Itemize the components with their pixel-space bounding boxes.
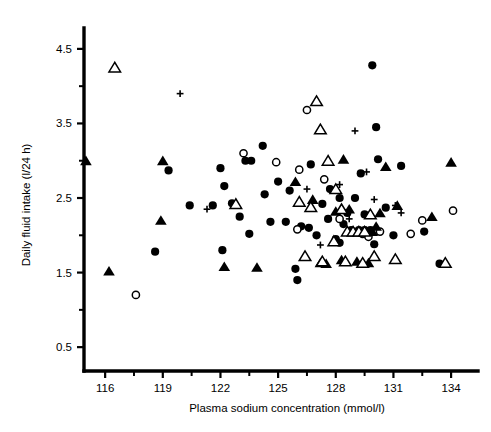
point-filled-circle [259, 142, 267, 150]
point-open-circle [273, 159, 280, 166]
x-tick-label: 122 [211, 382, 230, 394]
point-filled-circle [274, 178, 282, 186]
point-filled-circle [374, 155, 382, 163]
point-open-triangle [336, 204, 348, 214]
y-tick-label: 3.5 [56, 117, 72, 129]
point-plus [398, 210, 405, 217]
point-filled-circle [151, 248, 159, 256]
point-open-circle [449, 207, 456, 214]
point-filled-triangle [445, 157, 457, 167]
tick-labels-group: 0.51.52.53.54.5116119122125128131134 [56, 43, 461, 394]
y-tick-label: 1.5 [56, 267, 72, 279]
point-filled-circle [291, 265, 299, 273]
point-plus [371, 196, 378, 203]
point-open-circle [296, 166, 303, 173]
point-filled-triangle [307, 194, 319, 204]
point-filled-circle [216, 164, 224, 172]
plot-canvas: 0.51.52.53.54.5116119122125128131134 Pla… [0, 0, 491, 432]
point-filled-circle [336, 194, 344, 202]
point-filled-circle [245, 230, 253, 238]
point-plus [317, 242, 324, 249]
point-filled-circle [261, 190, 269, 198]
point-open-circle [294, 226, 301, 233]
x-tick-label: 116 [96, 382, 114, 394]
point-filled-circle [324, 215, 332, 223]
point-filled-circle [370, 240, 378, 248]
point-plus [304, 186, 311, 193]
x-tick-label: 125 [269, 382, 288, 394]
point-filled-triangle [370, 221, 382, 231]
x-tick-label: 128 [326, 382, 345, 394]
y-tick-label: 0.5 [56, 341, 72, 353]
point-filled-triangle [251, 262, 263, 272]
point-open-triangle [315, 124, 327, 134]
point-open-triangle [368, 251, 380, 261]
x-axis-title: Plasma sodium concentration (mmol/l) [189, 402, 385, 414]
point-filled-triangle [426, 211, 438, 221]
point-filled-circle [305, 224, 313, 232]
point-filled-circle [368, 61, 376, 69]
point-filled-circle [247, 157, 255, 165]
point-open-triangle [390, 254, 402, 264]
point-filled-circle [372, 123, 380, 131]
point-filled-circle [209, 201, 217, 209]
point-open-circle [407, 230, 414, 237]
point-filled-circle [389, 231, 397, 239]
point-filled-circle [318, 200, 326, 208]
point-open-circle [303, 106, 310, 113]
point-plus [352, 128, 359, 135]
point-filled-circle [293, 276, 301, 284]
point-filled-circle [307, 160, 315, 168]
point-filled-circle [164, 166, 172, 174]
point-filled-circle [236, 213, 244, 221]
y-tick-label: 4.5 [56, 43, 72, 55]
point-open-circle [321, 176, 328, 183]
data-points-group [80, 61, 457, 298]
point-open-circle [336, 215, 343, 222]
point-filled-circle [286, 186, 294, 194]
point-filled-circle [351, 194, 359, 202]
point-filled-circle [218, 246, 226, 254]
point-filled-triangle [380, 161, 392, 171]
point-open-triangle [311, 96, 323, 106]
point-open-triangle [109, 62, 121, 72]
point-open-triangle [322, 156, 334, 166]
point-filled-circle [282, 218, 290, 226]
tick-marks-group [77, 49, 451, 378]
point-filled-triangle [103, 266, 115, 276]
point-plus [177, 90, 184, 97]
point-filled-circle [397, 162, 405, 170]
point-filled-circle [312, 231, 320, 239]
point-filled-circle [220, 182, 228, 190]
point-filled-circle [186, 201, 194, 209]
x-tick-label: 119 [154, 382, 172, 394]
axes-group [84, 28, 478, 371]
point-open-circle [419, 217, 426, 224]
point-filled-triangle [290, 176, 302, 186]
point-filled-circle [266, 218, 274, 226]
point-open-circle [132, 291, 139, 298]
point-open-triangle [293, 197, 305, 207]
point-filled-circle [420, 227, 428, 235]
point-open-circle [240, 150, 247, 157]
scatter-plot-figure: 0.51.52.53.54.5116119122125128131134 Pla… [0, 0, 491, 432]
point-filled-circle [382, 204, 390, 212]
y-axis-title: Daily fluid intake (l/24 h) [20, 143, 32, 266]
point-filled-triangle [219, 261, 231, 271]
x-tick-label: 131 [384, 382, 403, 394]
x-tick-label: 134 [441, 382, 461, 394]
point-filled-triangle [157, 156, 169, 166]
point-filled-triangle [338, 154, 350, 164]
y-tick-label: 2.5 [56, 192, 72, 204]
point-open-triangle [299, 251, 311, 261]
point-filled-circle [357, 169, 365, 177]
point-filled-triangle [155, 215, 167, 225]
